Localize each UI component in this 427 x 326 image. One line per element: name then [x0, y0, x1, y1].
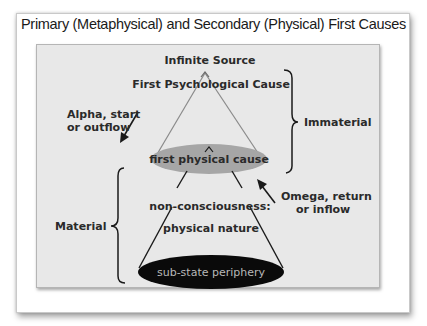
material-label: Material — [55, 220, 106, 233]
omega-label-line2: or inflow — [296, 203, 350, 216]
physical-nature-label: physical nature — [163, 222, 259, 235]
alpha-label-line1: Alpha, start — [67, 108, 140, 121]
immaterial-label: Immaterial — [304, 116, 372, 129]
infinite-source-label: Infinite Source — [165, 54, 256, 67]
first-psychological-cause-label: First Psychological Cause — [132, 78, 290, 91]
omega-label-line1: Omega, return — [281, 190, 372, 203]
first-physical-cause-label: first physical cause — [149, 153, 269, 166]
non-consciousness-label: non-consciousness: — [149, 200, 270, 213]
material-brace-icon — [111, 168, 125, 283]
alpha-label-line2: or outflow — [67, 121, 130, 134]
sub-state-periphery-label: sub-state periphery — [157, 266, 265, 279]
